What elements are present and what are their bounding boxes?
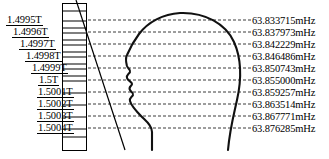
gradient-ramp-line [0, 0, 329, 159]
field-gradient-figure: 1.4995T63.833715mHz1.4996T63.837973mHz1.… [0, 0, 329, 159]
